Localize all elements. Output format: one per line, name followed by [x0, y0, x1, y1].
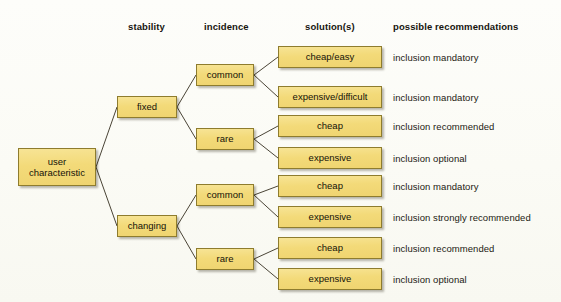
column-header-incidence: incidence — [204, 21, 249, 32]
node-label: rare — [217, 254, 234, 265]
recommendation-6: inclusion strongly recommended — [393, 212, 531, 223]
node-label: cheap — [317, 243, 343, 254]
node-solution-8: expensive — [278, 268, 382, 290]
recommendation-3: inclusion recommended — [393, 121, 494, 132]
column-header-stability: stability — [128, 21, 165, 32]
node-solution-7: cheap — [278, 237, 382, 259]
node-incidence-changing-rare: rare — [196, 248, 254, 270]
recommendation-8: inclusion optional — [393, 274, 467, 285]
node-label: common — [207, 190, 243, 201]
node-label: cheap — [317, 181, 343, 192]
node-user-characteristic: user characteristic — [18, 148, 96, 186]
node-label: rare — [217, 134, 234, 145]
node-solution-1: cheap/easy — [278, 46, 382, 68]
recommendation-4: inclusion optional — [393, 153, 467, 164]
node-incidence-fixed-rare: rare — [196, 128, 254, 150]
node-incidence-fixed-common: common — [196, 64, 254, 86]
node-label-line2: characteristic — [29, 167, 85, 178]
node-label: changing — [128, 221, 167, 232]
node-label: cheap/easy — [306, 52, 355, 63]
column-header-possible-recommendations: possible recommendations — [393, 21, 518, 32]
node-solution-3: cheap — [278, 115, 382, 137]
decision-tree-diagram: stability incidence solution(s) possible… — [0, 0, 561, 302]
node-label: expensive — [309, 212, 352, 223]
node-solution-2: expensive/difficult — [278, 86, 382, 108]
recommendation-5: inclusion mandatory — [393, 181, 478, 192]
node-label: cheap — [317, 121, 343, 132]
node-label: fixed — [137, 102, 157, 113]
node-label: expensive/difficult — [293, 92, 368, 103]
node-stability-changing: changing — [117, 215, 177, 237]
column-header-solutions: solution(s) — [305, 21, 355, 32]
recommendation-2: inclusion mandatory — [393, 92, 478, 103]
node-solution-5: cheap — [278, 175, 382, 197]
recommendation-1: inclusion mandatory — [393, 52, 478, 63]
node-stability-fixed: fixed — [117, 96, 177, 118]
node-solution-6: expensive — [278, 206, 382, 228]
node-label: expensive — [309, 274, 352, 285]
node-label: expensive — [309, 153, 352, 164]
recommendation-7: inclusion recommended — [393, 243, 494, 254]
node-label-line1: user — [48, 156, 66, 167]
node-incidence-changing-common: common — [196, 184, 254, 206]
node-label: common — [207, 70, 243, 81]
node-solution-4: expensive — [278, 147, 382, 169]
